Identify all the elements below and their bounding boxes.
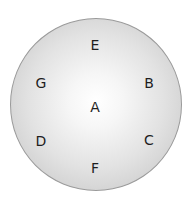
label-c: C bbox=[139, 132, 159, 148]
label-a: A bbox=[85, 99, 105, 115]
label-d: D bbox=[31, 133, 51, 149]
label-g: G bbox=[31, 75, 51, 91]
label-f: F bbox=[85, 160, 105, 176]
label-e: E bbox=[85, 37, 105, 53]
label-b: B bbox=[139, 75, 159, 91]
